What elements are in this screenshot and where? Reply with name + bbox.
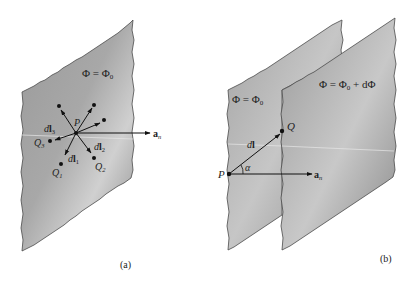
- point-q3: [48, 139, 52, 143]
- potential-surfaces-diagram: Φ = Φ0 P an dl3 Q3 dl1 Q1 dl2 Q2 (a: [0, 0, 411, 281]
- point-p-b: [227, 172, 231, 176]
- caption-a: (a): [120, 259, 131, 271]
- point-p: [74, 131, 78, 135]
- label-an-a: an: [153, 128, 161, 140]
- surface-label-back: Φ = Φ0: [232, 93, 264, 107]
- label-alpha: α: [245, 162, 251, 173]
- dot: [102, 118, 106, 122]
- point-q2: [92, 156, 96, 160]
- surface-label-a: Φ = Φ0: [82, 67, 114, 81]
- panel-a: Φ = Φ0 P an dl3 Q3 dl1 Q1 dl2 Q2 (a: [21, 20, 161, 271]
- label-p-b: P: [217, 168, 225, 180]
- label-p-a: P: [73, 117, 80, 128]
- label-dl-b: dl: [247, 139, 255, 150]
- panel-b: Φ = Φ0 Φ = Φ0 + dΦ P Q dl α an (b): [217, 18, 396, 265]
- point-q1: [59, 162, 63, 166]
- dot: [92, 103, 96, 107]
- caption-b: (b): [380, 253, 392, 265]
- dot: [57, 104, 61, 108]
- label-q-b: Q: [287, 120, 295, 132]
- point-q-b: [280, 129, 284, 133]
